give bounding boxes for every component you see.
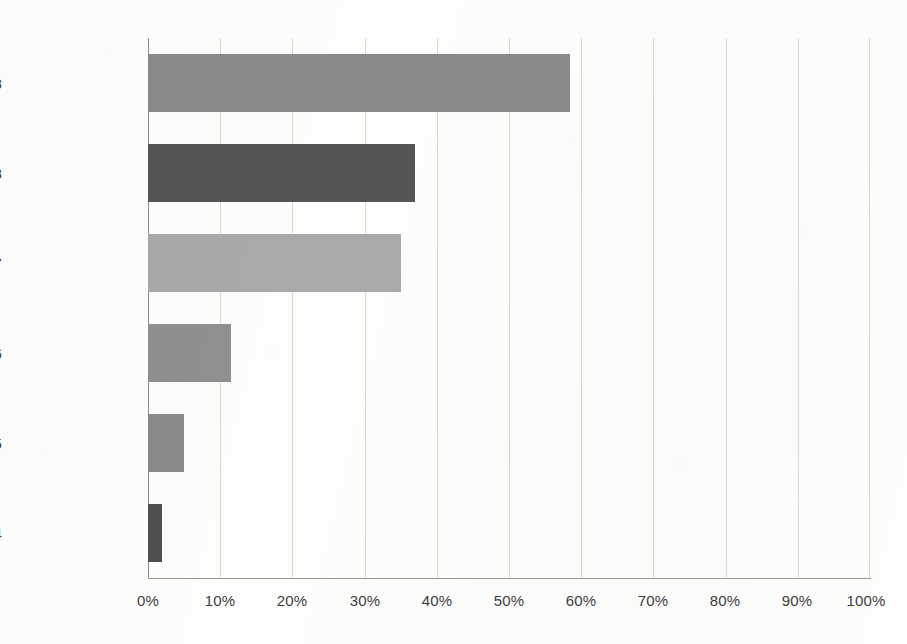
x-tick-label-60: 60% [551,592,611,609]
bar-java-ee-8 [148,54,570,112]
y-tick-label-java-ee-5: Java EE 5 [0,435,2,452]
x-tick-label-50: 50% [479,592,539,609]
bar-java-ee-6 [148,324,231,382]
bar-java-ee-7 [148,234,401,292]
x-tick-label-10: 10% [190,592,250,609]
x-tick-label-70: 70% [623,592,683,609]
y-tick-label-j2ee-1-4: J2EE 1.4 [0,525,2,542]
plot-area [148,38,870,578]
x-axis-line [148,578,871,579]
x-tick-label-40: 40% [407,592,467,609]
x-tick-label-90: 90% [767,592,827,609]
bar-j2ee-1-4 [148,504,162,562]
bar-band [148,398,870,488]
bar-band [148,488,870,578]
bar-band [148,38,870,128]
y-tick-label-java-ee-8: Java EE 8 [0,75,2,92]
bar-jakarta-ee-8 [148,144,415,202]
bar-java-ee-5 [148,414,184,472]
y-tick-label-jakarta-ee-8: Jakarta EE 8 [0,165,2,182]
x-tick-label-80: 80% [695,592,755,609]
bar-chart: Java EE 8 Jakarta EE 8 Java EE 7 Java EE… [0,0,907,644]
bar-band [148,218,870,308]
bar-band [148,308,870,398]
x-tick-label-20: 20% [262,592,322,609]
x-tick-label-30: 30% [335,592,395,609]
bar-band [148,128,870,218]
y-tick-label-java-ee-7: Java EE 7 [0,255,2,272]
x-tick-label-0: 0% [118,592,178,609]
x-tick-label-100: 100% [836,592,896,609]
y-tick-label-java-ee-6: Java EE 6 [0,345,2,362]
